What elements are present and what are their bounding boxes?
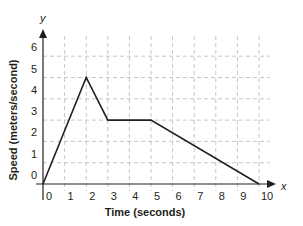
speed-time-chart: y x 012345678910 0123456 Time (seconds) … xyxy=(0,0,303,226)
y-tick-labels: 0123456 xyxy=(31,41,37,181)
x-tick-label: 9 xyxy=(240,190,246,202)
x-tick-label: 2 xyxy=(89,190,95,202)
x-tick-label: 6 xyxy=(176,190,182,202)
x-tick-label: 0 xyxy=(46,190,52,202)
y-tick-label: 4 xyxy=(31,84,37,96)
x-axis-variable: x xyxy=(280,180,287,192)
x-tick-label: 10 xyxy=(261,190,273,202)
y-tick-label: 6 xyxy=(31,41,37,53)
y-axis-title: Speed (meters/second) xyxy=(7,59,19,180)
grid xyxy=(43,36,270,191)
y-axis-arrow-icon xyxy=(39,29,47,38)
x-tick-label: 5 xyxy=(154,190,160,202)
y-tick-label: 2 xyxy=(31,126,37,138)
x-tick-labels: 012345678910 xyxy=(46,190,273,202)
x-tick-label: 8 xyxy=(219,190,225,202)
x-tick-label: 4 xyxy=(132,190,138,202)
axes: y x xyxy=(36,12,287,200)
x-tick-label: 7 xyxy=(197,190,203,202)
y-tick-label: 0 xyxy=(31,169,37,181)
x-axis-title: Time (seconds) xyxy=(105,206,186,218)
x-tick-label: 3 xyxy=(111,190,117,202)
x-tick-label: 1 xyxy=(68,190,74,202)
y-tick-label: 3 xyxy=(31,105,37,117)
y-tick-label: 5 xyxy=(31,63,37,75)
x-axis-arrow-icon xyxy=(267,180,276,188)
y-tick-label: 1 xyxy=(31,148,37,160)
y-axis-variable: y xyxy=(39,12,47,24)
